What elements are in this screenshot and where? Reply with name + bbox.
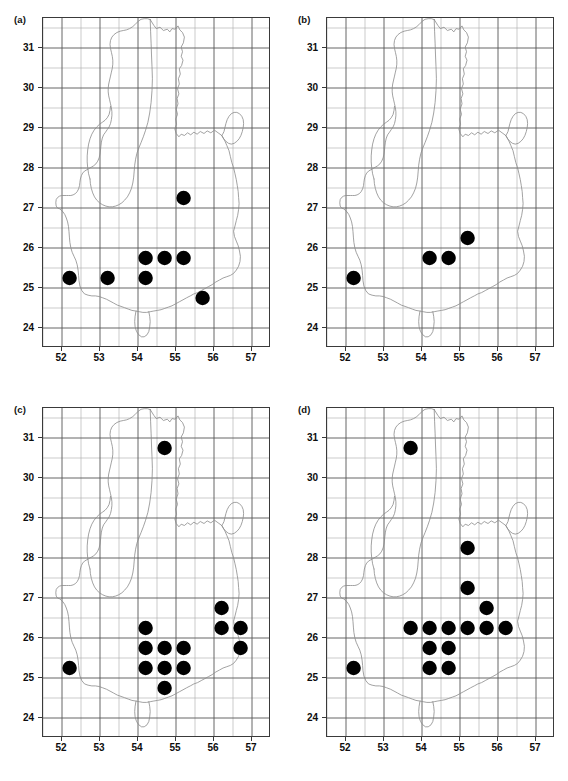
y-axis-tick-label: 27 (292, 592, 318, 603)
x-axis-tick-label: 54 (415, 742, 426, 753)
data-point (346, 661, 360, 675)
y-axis-tick-mark (322, 477, 326, 478)
outline-segment-1 (419, 701, 435, 727)
x-axis-tick-label: 52 (339, 742, 350, 753)
data-point (460, 621, 474, 635)
outline-segment-0 (340, 409, 525, 703)
y-axis-tick-label: 26 (292, 632, 318, 643)
data-point (479, 621, 493, 635)
data-point (422, 621, 436, 635)
data-point (441, 621, 455, 635)
x-axis-tick-mark (535, 737, 536, 741)
data-point (460, 581, 474, 595)
plot-svg (327, 408, 554, 737)
y-axis-tick-mark (322, 637, 326, 638)
x-axis-tick-label: 55 (453, 742, 464, 753)
grid-minor (327, 408, 554, 737)
data-point (479, 601, 493, 615)
data-point (422, 641, 436, 655)
x-axis-tick-mark (459, 737, 460, 741)
data-point (441, 661, 455, 675)
x-axis-tick-mark (497, 737, 498, 741)
data-point (422, 661, 436, 675)
y-axis-tick-mark (322, 677, 326, 678)
y-axis-tick-mark (322, 597, 326, 598)
y-axis-tick-label: 30 (292, 472, 318, 483)
y-axis-tick-label: 31 (292, 432, 318, 443)
region-outline (340, 409, 528, 727)
x-axis-tick-label: 57 (529, 742, 540, 753)
x-axis-tick-mark (421, 737, 422, 741)
y-axis-tick-mark (322, 557, 326, 558)
y-axis-tick-label: 24 (292, 712, 318, 723)
plot-area (326, 407, 554, 737)
data-point (460, 541, 474, 555)
x-axis-tick-mark (345, 737, 346, 741)
y-axis-tick-label: 28 (292, 552, 318, 563)
panel-d: (d)2425262728293031525354555657 (0, 0, 568, 781)
y-axis-tick-mark (322, 517, 326, 518)
figure-distribution-maps: (a)2425262728293031525354555657(b)242526… (0, 0, 568, 781)
data-point (403, 441, 417, 455)
x-axis-tick-label: 56 (491, 742, 502, 753)
y-axis-tick-label: 29 (292, 512, 318, 523)
grid-major (327, 408, 554, 737)
data-point (403, 621, 417, 635)
panel-label: (d) (298, 404, 311, 415)
y-axis-tick-mark (322, 717, 326, 718)
x-axis-tick-label: 53 (377, 742, 388, 753)
y-axis-tick-mark (322, 437, 326, 438)
data-point (498, 621, 512, 635)
y-axis-tick-label: 25 (292, 672, 318, 683)
data-point (441, 641, 455, 655)
x-axis-tick-mark (383, 737, 384, 741)
